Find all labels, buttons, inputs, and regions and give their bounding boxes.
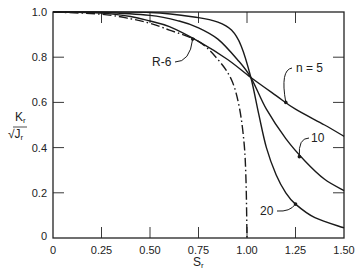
y-tick-label: 1.0 — [32, 6, 47, 18]
x-tick-label: 0.50 — [139, 244, 160, 256]
y-tick-label: 0.8 — [32, 51, 47, 63]
x-tick-label: 1.00 — [236, 244, 257, 256]
failure-assessment-chart: 00.250.500.751.001.251.5000.20.40.60.81.… — [0, 0, 363, 275]
x-tick-label: 0 — [50, 244, 56, 256]
curve-20 — [53, 12, 344, 228]
label-n5: n = 5 — [296, 61, 323, 75]
plot-frame — [53, 12, 344, 238]
label-n10: 10 — [311, 131, 325, 145]
arrow-head-icon — [298, 155, 302, 159]
axis-ticks: 00.250.500.751.001.251.5000.20.40.60.81.… — [32, 6, 355, 256]
x-tick-label: 1.25 — [285, 244, 306, 256]
y-tick-label: 0.4 — [32, 142, 47, 154]
label-r6: R-6 — [152, 55, 172, 69]
y-tick-label: 0 — [41, 230, 47, 242]
leader-line — [175, 39, 193, 62]
x-axis-label: Sr — [193, 255, 204, 270]
curve-10 — [53, 12, 344, 191]
leader-line — [284, 68, 292, 102]
leader-line — [299, 138, 309, 157]
arrow-head-icon — [191, 37, 195, 41]
y-tick-label: 0.2 — [32, 187, 47, 199]
y-tick-label: 0.6 — [32, 96, 47, 108]
x-tick-label: 1.50 — [333, 244, 354, 256]
y-axis-label-k: Kr — [15, 110, 26, 125]
plot-border — [53, 12, 344, 238]
curve-r-6 — [53, 12, 247, 238]
x-tick-label: 0.25 — [91, 244, 112, 256]
curves — [53, 12, 344, 238]
curve-annotations: n = 5 10 20 R-6 — [152, 37, 325, 218]
arrow-head-icon — [294, 202, 298, 206]
leader-line — [277, 204, 296, 211]
arrow-head-icon — [284, 101, 288, 105]
y-axis-label-j: √Jr — [8, 127, 24, 142]
label-n20: 20 — [260, 204, 274, 218]
